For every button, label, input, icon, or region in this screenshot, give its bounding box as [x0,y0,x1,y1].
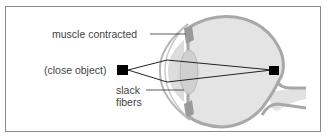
label-muscle-contracted: muscle contracted [52,28,137,40]
optic-nerve-upper-edge [276,80,306,88]
label-slack-line1: slack [116,84,142,96]
label-close-object: (close object) [44,64,106,76]
optic-nerve-lower-edge [262,104,306,115]
close-object-square [117,65,128,75]
ray-top-in [128,60,167,70]
retina-image-square [269,66,279,75]
lens [180,50,198,94]
label-slack-fibers: slack fibers [116,84,142,108]
label-slack-line2: fibers [116,96,142,108]
